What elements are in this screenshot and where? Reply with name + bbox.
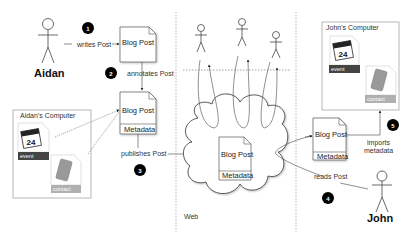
aidan-event-file-icon: 24 event [18,123,49,160]
architecture-diagram: Aidan 1 writes Post Blog Post 2 annotate… [0,0,413,242]
aidan-actor-icon [38,19,58,64]
reader-2-icon [236,19,248,47]
john-event-file-icon: 24 event [329,36,360,73]
blog-post-annotated-label: Blog Post [122,106,155,115]
step-3-badge: 3 [134,164,146,176]
svg-text:24: 24 [27,138,36,147]
reader-1-icon [195,25,207,53]
svg-text:event: event [20,153,34,159]
metadata-annotated-label: Metadata [124,125,156,134]
step-5-label-line1: imports [367,139,390,147]
svg-text:event: event [331,66,345,72]
step-1-badge: 1 [82,22,94,34]
john-name: John [367,212,394,224]
john-actor-icon [372,171,392,212]
step-2-badge: 2 [105,67,117,79]
web-label: Web [184,213,198,220]
metadata-published-label: Metadata [222,171,254,180]
svg-text:24: 24 [339,50,348,59]
reader-3-icon [270,32,282,59]
svg-text:contact: contact [367,96,385,102]
svg-text:contact: contact [53,186,71,192]
step-5-label-line2: metadata [364,147,393,154]
step-1-label: writes Post [76,41,111,48]
aidans-computer-title: Aidan's Computer [20,112,76,120]
aidan-name: Aidan [34,67,65,79]
blog-post-draft-label: Blog Post [122,38,155,47]
step-4-label: reads Post [314,173,348,180]
step-5-badge: 5 [387,119,399,131]
johns-computer-title: John's Computer [326,24,379,32]
john-contact-file-icon: contact [365,66,396,103]
step-2-label: annotates Post [127,70,174,77]
blog-post-received-label: Blog Post [315,130,348,139]
step-3-label: publishes Post [121,150,167,158]
blog-post-published-label: Blog Post [221,150,254,159]
step-4-badge: 4 [322,192,334,204]
aidan-contact-file-icon: contact [51,155,81,193]
metadata-received-label: Metadata [317,152,349,161]
